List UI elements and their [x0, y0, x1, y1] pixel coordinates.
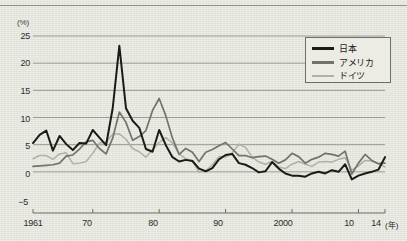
legend-item-japan: 日本 — [312, 42, 356, 55]
legend-swatch-japan — [312, 47, 334, 50]
legend-item-germany: ドイツ — [312, 69, 365, 82]
series-line-germany — [33, 134, 385, 173]
legend-label-america: アメリカ — [339, 56, 374, 69]
x-axis-ticks-group — [33, 209, 385, 213]
inflation-rate-chart: (%) 25 20 15 10 5 0 −5 1961 70 80 90 200… — [0, 0, 407, 241]
legend-swatch-america — [312, 61, 334, 64]
legend-item-america: アメリカ — [312, 56, 374, 69]
legend-label-germany: ドイツ — [339, 69, 365, 82]
legend: 日本 アメリカ ドイツ — [305, 37, 391, 83]
legend-swatch-germany — [312, 75, 334, 77]
legend-label-japan: 日本 — [339, 42, 356, 55]
